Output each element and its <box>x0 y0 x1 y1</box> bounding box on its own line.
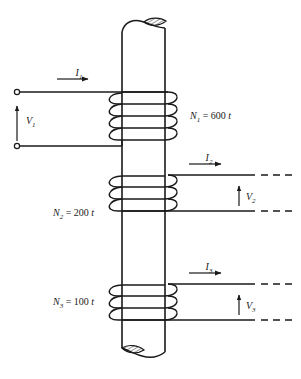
primary-turn-4 <box>109 128 177 140</box>
label-voltage-1: V1 <box>26 115 36 129</box>
primary-terminal-bottom <box>14 143 19 148</box>
secondary-circuit-3 <box>165 273 297 320</box>
label-turns-1: N1 = 600 t <box>189 110 231 124</box>
secondary2-turn-1 <box>109 175 177 187</box>
diagram-canvas: I1 V1 N1 = 600 t I2 V2 N2 = 200 t I3 V3 … <box>0 0 301 379</box>
label-voltage-3: V3 <box>246 300 256 314</box>
secondary2-turn-3 <box>109 199 177 211</box>
core-bottom-hatch <box>122 346 144 353</box>
secondary3-turn-2 <box>109 296 177 308</box>
winding-secondary-3 <box>109 284 177 320</box>
transformer-diagram: I1 V1 N1 = 600 t I2 V2 N2 = 200 t I3 V3 … <box>0 0 301 379</box>
primary-turn-1 <box>109 92 177 104</box>
label-turns-2: N2 = 200 t <box>52 207 94 221</box>
secondary-circuit-2 <box>165 164 297 211</box>
label-voltage-2: V2 <box>246 191 256 205</box>
secondary3-turn-3 <box>109 308 177 320</box>
core-top-hatch <box>144 18 166 25</box>
label-turns-3: N3 = 100 t <box>52 296 94 310</box>
winding-primary <box>109 92 177 146</box>
winding-secondary-2 <box>109 175 177 211</box>
secondary3-turn-1 <box>109 284 177 296</box>
primary-turn-3 <box>109 116 177 128</box>
primary-terminal-top <box>14 89 19 94</box>
primary-turn-2 <box>109 104 177 116</box>
secondary2-turn-2 <box>109 187 177 199</box>
primary-circuit <box>14 79 168 149</box>
